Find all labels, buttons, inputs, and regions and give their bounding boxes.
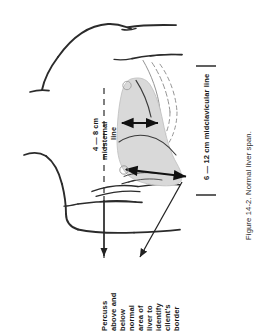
- figure-plate: 4 — 8 cm midsternal line 6 — 12 cm midcl…: [0, 0, 265, 331]
- figure-caption: Figure 14-2. Normal liver span.: [244, 131, 253, 240]
- percussion-callout-line-1: Percuss: [100, 301, 109, 331]
- midsternal-label-line3: line: [109, 127, 118, 140]
- percussion-callout-line-6: liver to: [145, 305, 154, 331]
- callout-leader-arrows: [104, 182, 182, 257]
- percussion-callout-line-5: area of: [136, 305, 145, 331]
- percussion-callout-line-2: above and: [109, 293, 118, 331]
- percussion-callout-line-7: identify: [154, 303, 163, 331]
- percussion-callout-line-9: border: [172, 306, 181, 331]
- percussion-callout-line-4: normal: [127, 305, 136, 331]
- midsternal-label-line1: 4 — 8 cm: [91, 118, 100, 151]
- liver-span-illustration: [0, 0, 265, 331]
- midsternal-label-line2: midsternal: [100, 122, 109, 160]
- percussion-callout-line-8: client's: [163, 304, 172, 331]
- percussion-callout-line-3: below: [118, 309, 127, 331]
- midclavicular-label: 6 — 12 cm midclavicular line: [202, 74, 211, 180]
